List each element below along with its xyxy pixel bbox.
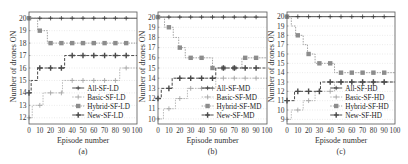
plus-marker-icon [92,16,96,20]
plus-marker-icon [91,53,97,59]
y-tick-label: 19 [277,22,285,31]
plus-marker-icon [91,78,96,83]
plus-marker-icon [113,78,118,83]
x-tick-label: 0 [285,127,289,135]
square-marker-icon [124,41,128,45]
y-tick-label: 14 [148,74,156,83]
plus-marker-icon [102,16,106,20]
x-tick-label: 70 [359,127,367,135]
square-marker-icon [350,70,354,74]
y-tick-label: 14 [277,68,285,77]
square-marker-icon [189,56,193,60]
x-tick-label: 90 [381,127,389,135]
legend-label: Basic-SF-LD [87,94,125,102]
plus-marker-icon [59,16,63,20]
plus-marker-icon [199,75,205,81]
plus-marker-icon [113,53,119,59]
y-tick-label: 15 [277,59,285,68]
square-marker-icon [38,28,42,32]
x-tick-label: 0 [27,127,31,135]
legend-label: Hybrid-SF-HD [345,103,389,111]
x-axis-label: Episode number [158,136,267,145]
plus-marker-icon [177,75,183,81]
x-tick-label: 100 [390,127,401,135]
square-marker-icon [210,66,214,70]
plus-marker-icon [102,78,107,83]
plus-marker-icon [243,76,248,81]
y-tick-label: 13 [277,78,285,87]
square-marker-icon [205,104,209,108]
x-tick-label: 60 [348,127,356,135]
plus-marker-icon [177,96,182,101]
y-tick-label: 16 [277,50,285,59]
x-tick-label: 30 [316,127,324,135]
square-marker-icon [360,70,364,74]
x-tick-label: 60 [220,127,228,135]
plus-marker-icon [70,78,75,83]
y-axis-label: Number of drones ON [138,12,147,122]
plus-marker-icon [205,112,211,118]
panel-caption: (a) [29,147,137,156]
x-tick-label: 90 [253,127,261,135]
square-marker-icon [254,56,258,60]
x-tick-label: 40 [198,127,206,135]
plus-marker-icon [102,53,108,59]
square-marker-icon [92,41,96,45]
x-tick-label: 0 [156,127,160,135]
x-axis-label: Episode number [29,136,137,145]
legend-label: Basic-SF-HD [345,94,384,102]
y-tick-label: 15 [148,64,156,73]
x-tick-label: 20 [47,127,55,135]
plus-marker-icon [306,98,311,103]
plus-marker-icon [242,65,248,71]
chart-panel-a: 1213141516171819200102030405060708090100… [0,0,136,164]
square-marker-icon [113,41,117,45]
x-tick-label: 10 [36,127,44,135]
y-tick-label: 14 [19,88,27,97]
y-tick-label: 10 [277,106,285,115]
plus-marker-icon [75,112,81,118]
plus-marker-icon [338,79,344,85]
x-tick-label: 50 [79,127,87,135]
y-tick-label: 9 [281,115,285,124]
square-marker-icon [199,56,203,60]
y-axis-label: Number of drones ON [267,12,276,122]
plus-marker-icon [167,106,172,111]
y-tick-label: 16 [19,64,27,73]
plus-marker-icon [317,14,321,18]
panel-caption: (b) [158,147,267,156]
plus-marker-icon [48,16,52,20]
series-line-hybrid-sf-hd [287,17,395,73]
plus-marker-icon [333,112,339,118]
y-tick-label: 15 [19,76,27,85]
square-marker-icon [371,70,375,74]
chart-panel-b: 1011121314151617181920010203040506070809… [130,0,270,164]
y-tick-label: 17 [277,40,285,49]
plus-marker-icon [306,89,312,95]
plus-marker-icon [124,66,129,71]
y-tick-label: 13 [148,84,156,93]
y-tick-label: 18 [148,33,156,42]
plus-marker-icon [371,14,375,18]
y-tick-label: 12 [148,94,156,103]
legend-label: All-SF-MD [217,85,251,93]
square-marker-icon [48,41,52,45]
plus-marker-icon [166,86,172,92]
series-line-hybrid-sf-ld [29,18,137,43]
x-tick-label: 30 [58,127,66,135]
x-tick-label: 60 [90,127,98,135]
legend-label: New-SF-HD [345,112,382,120]
plus-marker-icon [113,16,117,20]
plus-marker-icon [328,89,333,94]
square-marker-icon [70,41,74,45]
plus-marker-icon [178,15,182,19]
legend-label: New-SF-LD [87,112,123,120]
square-marker-icon [102,41,106,45]
series-line-new-sf-ld [29,56,137,93]
plus-marker-icon [167,15,171,19]
plus-marker-icon [188,86,193,91]
x-tick-label: 20 [305,127,313,135]
plus-marker-icon [295,108,300,113]
y-tick-label: 13 [19,101,27,110]
square-marker-icon [317,61,321,65]
